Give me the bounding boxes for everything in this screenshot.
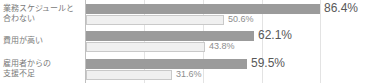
value-label-primary: 86.4% <box>324 1 358 15</box>
bar-secondary <box>86 42 205 52</box>
bar-secondary <box>86 70 172 80</box>
category-label-line2: 合わない <box>3 14 83 24</box>
bar-primary <box>86 59 247 69</box>
bar-primary <box>86 4 320 14</box>
value-label-primary: 62.1% <box>258 28 292 42</box>
chart-row: 業務スケジュールと 合わない 86.4% 50.6% <box>0 0 377 28</box>
value-label-primary: 59.5% <box>251 56 285 70</box>
value-label-secondary: 50.6% <box>228 14 254 24</box>
category-label-line1: 雇用者からの <box>3 59 83 69</box>
bar-primary <box>86 31 254 41</box>
value-label-secondary: 43.8% <box>209 41 235 51</box>
category-label: 業務スケジュールと 合わない <box>3 4 83 23</box>
category-label-line1: 業務スケジュールと <box>3 4 83 14</box>
chart-row: 費用が高い 62.1% 43.8% <box>0 28 377 55</box>
category-label-line2: 支援不足 <box>3 69 83 79</box>
category-label: 費用が高い <box>3 36 83 46</box>
value-label-secondary: 31.6% <box>176 69 202 79</box>
horizontal-bar-chart: 業務スケジュールと 合わない 86.4% 50.6% 費用が高い 62.1% 4… <box>0 0 377 83</box>
bar-secondary <box>86 15 224 25</box>
category-label: 雇用者からの 支援不足 <box>3 59 83 78</box>
chart-row: 雇用者からの 支援不足 59.5% 31.6% <box>0 55 377 83</box>
category-label-line1: 費用が高い <box>3 36 83 46</box>
